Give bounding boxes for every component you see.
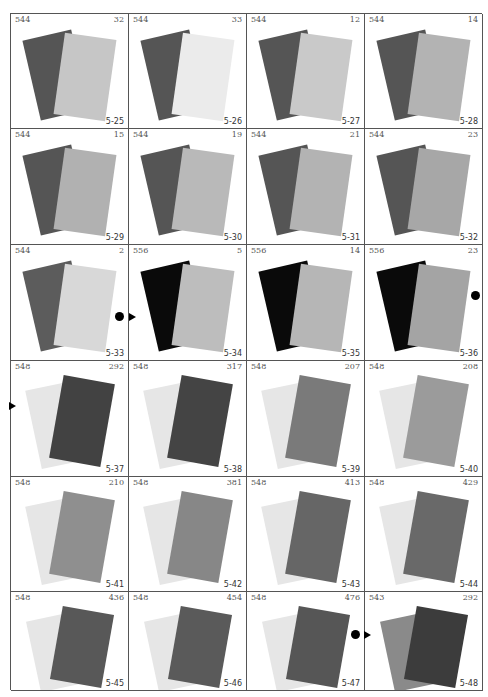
figure-label: 5-25: [106, 117, 124, 126]
front-swatch: [172, 264, 235, 352]
swatch-panel: 5483815-42: [129, 477, 247, 592]
color-code: 548: [251, 478, 266, 487]
swatch-grid: 544325-25544335-26544125-27544145-285441…: [10, 13, 482, 690]
front-swatch: [54, 148, 117, 236]
figure-label: 5-39: [342, 465, 360, 474]
figure-label: 5-47: [342, 679, 360, 688]
figure-label: 5-42: [224, 580, 242, 589]
front-swatch: [50, 606, 114, 688]
figure-label: 5-35: [342, 349, 360, 358]
figure-label: 5-37: [106, 465, 124, 474]
color-number: 33: [232, 15, 242, 24]
dot-marker: [351, 630, 360, 639]
color-number: 2: [119, 246, 124, 255]
swatch-panel: 5482075-39: [247, 361, 365, 477]
swatch-panel: 5484765-47: [247, 592, 365, 691]
swatch-panel: 544235-32: [365, 129, 483, 245]
color-number: 15: [114, 130, 124, 139]
front-swatch: [408, 33, 471, 121]
color-code: 544: [369, 130, 384, 139]
color-code: 548: [133, 362, 148, 371]
color-number: 381: [227, 478, 242, 487]
dot-marker: [115, 312, 124, 321]
color-number: 292: [109, 362, 124, 371]
front-swatch: [404, 606, 468, 688]
swatch-panel: 544125-27: [247, 14, 365, 129]
color-code: 544: [15, 130, 30, 139]
swatch-panel: 5482105-41: [11, 477, 129, 592]
color-number: 292: [463, 593, 478, 602]
color-code: 556: [133, 246, 148, 255]
swatch-panel: 5482925-37: [11, 361, 129, 477]
swatch-panel: 544215-31: [247, 129, 365, 245]
figure-label: 5-45: [106, 679, 124, 688]
color-code: 544: [15, 246, 30, 255]
color-code: 544: [251, 130, 266, 139]
figure-label: 5-31: [342, 233, 360, 242]
figure-label: 5-40: [460, 465, 478, 474]
figure-label: 5-36: [460, 349, 478, 358]
dot-marker: [471, 291, 480, 300]
swatch-panel: 5482085-40: [365, 361, 483, 477]
front-swatch: [408, 148, 471, 236]
color-number: 5: [237, 246, 242, 255]
color-code: 548: [133, 593, 148, 602]
swatch-panel: 5484135-43: [247, 477, 365, 592]
swatch-panel: 544155-29: [11, 129, 129, 245]
front-swatch: [290, 33, 353, 121]
color-code: 548: [251, 362, 266, 371]
color-number: 32: [114, 15, 124, 24]
color-code: 556: [369, 246, 384, 255]
color-number: 14: [350, 246, 360, 255]
color-code: 544: [369, 15, 384, 24]
color-number: 413: [345, 478, 360, 487]
color-code: 543: [369, 593, 384, 602]
color-code: 548: [15, 593, 30, 602]
color-number: 476: [345, 593, 360, 602]
color-number: 317: [227, 362, 242, 371]
swatch-panel: 5484295-44: [365, 477, 483, 592]
color-code: 548: [133, 478, 148, 487]
figure-label: 5-43: [342, 580, 360, 589]
color-number: 436: [109, 593, 124, 602]
figure-label: 5-44: [460, 580, 478, 589]
swatch-panel: 5484365-45: [11, 592, 129, 691]
front-swatch: [408, 264, 471, 352]
front-swatch: [172, 33, 235, 121]
triangle-marker: [9, 402, 16, 410]
color-number: 19: [232, 130, 242, 139]
color-number: 23: [468, 246, 478, 255]
triangle-marker: [129, 313, 136, 321]
front-swatch: [54, 33, 117, 121]
color-number: 210: [109, 478, 124, 487]
figure-label: 5-32: [460, 233, 478, 242]
swatch-panel: 544325-25: [11, 14, 129, 129]
swatch-panel: 556235-36: [365, 245, 483, 361]
front-swatch: [54, 264, 117, 352]
color-code: 544: [15, 15, 30, 24]
swatch-panel: 55655-34: [129, 245, 247, 361]
swatch-panel: 544335-26: [129, 14, 247, 129]
color-number: 14: [468, 15, 478, 24]
color-code: 548: [15, 478, 30, 487]
color-number: 454: [227, 593, 242, 602]
figure-label: 5-28: [460, 117, 478, 126]
color-number: 21: [350, 130, 360, 139]
front-swatch: [172, 148, 235, 236]
color-number: 208: [463, 362, 478, 371]
figure-label: 5-26: [224, 117, 242, 126]
figure-label: 5-30: [224, 233, 242, 242]
color-code: 548: [251, 593, 266, 602]
color-code: 544: [251, 15, 266, 24]
color-number: 429: [463, 478, 478, 487]
color-code: 548: [15, 362, 30, 371]
swatch-panel: 5483175-38: [129, 361, 247, 477]
figure-label: 5-46: [224, 679, 242, 688]
figure-label: 5-38: [224, 465, 242, 474]
front-swatch: [290, 148, 353, 236]
color-code: 544: [133, 130, 148, 139]
color-number: 23: [468, 130, 478, 139]
figure-label: 5-48: [460, 679, 478, 688]
swatch-panel: 556145-35: [247, 245, 365, 361]
swatch-panel: 5432925-48: [365, 592, 483, 691]
